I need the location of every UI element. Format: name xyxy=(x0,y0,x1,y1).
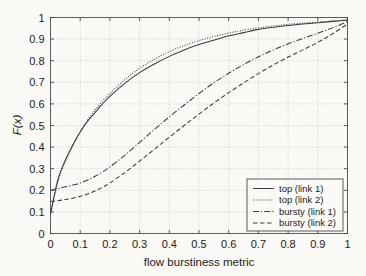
y-tick-label: 0.2 xyxy=(29,184,44,196)
x-tick-label: 0.6 xyxy=(221,238,236,250)
y-tick-label: 1 xyxy=(38,12,44,24)
x-tick-label: 0.3 xyxy=(132,238,147,250)
y-tick-label: 0.9 xyxy=(29,33,44,45)
y-axis-tick-labels: 00.10.20.30.40.50.60.70.80.91 xyxy=(29,12,44,240)
svg-text:F(x): F(x) xyxy=(11,115,23,136)
y-tick-label: 0.8 xyxy=(29,55,44,67)
chart-legend: top (link 1)top (link 2)bursty (link 1)b… xyxy=(247,179,343,231)
y-tick-label: 0.4 xyxy=(29,141,44,153)
y-tick-label: 0.5 xyxy=(29,120,44,132)
x-axis-tick-labels: 00.10.20.30.40.50.60.70.80.91 xyxy=(47,238,350,250)
x-tick-label: 0.7 xyxy=(251,238,266,250)
x-axis-title: flow burstiness metric xyxy=(144,256,255,268)
x-tick-label: 0.4 xyxy=(162,238,177,250)
x-tick-label: 0.9 xyxy=(310,238,325,250)
x-tick-label: 1 xyxy=(344,238,350,250)
x-tick-label: 0 xyxy=(47,238,53,250)
y-tick-label: 0.3 xyxy=(29,163,44,175)
y-axis-title: F(x) xyxy=(11,115,23,136)
x-tick-label: 0.1 xyxy=(73,238,88,250)
y-tick-label: 0.1 xyxy=(29,206,44,218)
chart-plot-area: 00.10.20.30.40.50.60.70.80.91 00.10.20.3… xyxy=(0,0,366,276)
chart-figure: 00.10.20.30.40.50.60.70.80.91 00.10.20.3… xyxy=(0,0,366,276)
y-tick-label: 0.6 xyxy=(29,98,44,110)
legend-label: top (link 1) xyxy=(279,183,323,194)
legend-label: bursty (link 1) xyxy=(279,206,336,217)
x-tick-label: 0.5 xyxy=(191,238,206,250)
y-tick-label: 0 xyxy=(38,228,44,240)
x-tick-label: 0.8 xyxy=(280,238,295,250)
legend-label: bursty (link 2) xyxy=(279,217,336,228)
y-tick-label: 0.7 xyxy=(29,76,44,88)
legend-label: top (link 2) xyxy=(279,194,323,205)
x-tick-label: 0.2 xyxy=(102,238,117,250)
